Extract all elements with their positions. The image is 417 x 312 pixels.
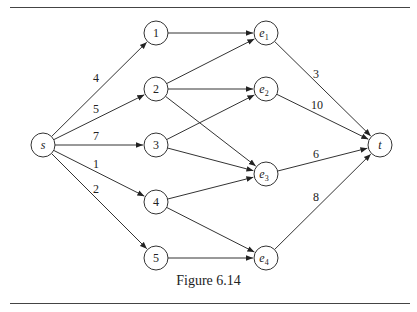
edge-weight-s-2: 5 xyxy=(93,102,99,116)
edge-weight-e4-t: 8 xyxy=(313,190,319,204)
node-label: s xyxy=(41,138,46,152)
edge-4-e3 xyxy=(168,177,254,199)
top-rule xyxy=(10,7,410,8)
node-label: 5 xyxy=(153,251,159,265)
node-label: 1 xyxy=(153,26,159,40)
edge-3-e3 xyxy=(168,148,254,171)
edge-e3-t xyxy=(278,148,368,171)
edge-weight-e1-t: 3 xyxy=(313,67,319,81)
node-s: s xyxy=(31,133,55,157)
edge-s-2 xyxy=(54,95,145,140)
edge-s-5 xyxy=(51,153,146,248)
edge-weight-e2-t: 10 xyxy=(311,98,323,112)
edge-weight-e3-t: 6 xyxy=(313,147,319,161)
node-5: 5 xyxy=(144,246,168,270)
edge-s-4 xyxy=(54,150,145,196)
node-e2: e2 xyxy=(254,77,278,101)
edge-weight-s-3: 7 xyxy=(93,129,99,143)
node-4: 4 xyxy=(144,190,168,214)
edges xyxy=(51,33,370,258)
node-3: 3 xyxy=(144,133,168,157)
edge-2-e3 xyxy=(165,96,255,166)
node-1: 1 xyxy=(144,21,168,45)
node-e1: e1 xyxy=(254,21,278,45)
edge-s-1 xyxy=(52,42,147,136)
edge-e1-t xyxy=(275,41,371,135)
node-label: 4 xyxy=(153,195,159,209)
edge-3-e2 xyxy=(167,95,255,140)
edge-weight-s-1: 4 xyxy=(93,71,99,85)
edge-weight-s-4: 1 xyxy=(93,157,99,171)
edge-2-e1 xyxy=(167,39,255,84)
edge-4-e4 xyxy=(167,207,255,252)
node-e4: e4 xyxy=(254,246,278,270)
figure-caption: Figure 6.14 xyxy=(0,273,417,289)
node-t: t xyxy=(368,133,392,157)
edge-weight-s-5: 2 xyxy=(93,182,99,196)
bottom-rule xyxy=(10,303,410,304)
node-label: 3 xyxy=(153,138,159,152)
figure-6-14: 4571231068 s12345e1e2e3e4t Figure 6.14 xyxy=(0,0,417,312)
edge-weight-labels: 4571231068 xyxy=(93,67,323,204)
node-e3: e3 xyxy=(254,162,278,186)
node-2: 2 xyxy=(144,77,168,101)
network-graph: 4571231068 s12345e1e2e3e4t xyxy=(0,0,417,312)
node-label: 2 xyxy=(153,82,159,96)
